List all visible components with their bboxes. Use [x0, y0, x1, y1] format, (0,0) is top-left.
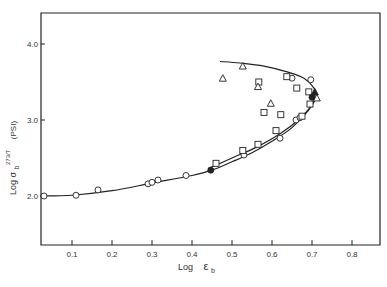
x-tick-label: 0.8 — [346, 250, 358, 259]
x-tick-label: 0.1 — [66, 250, 78, 259]
data-point-square — [261, 109, 267, 115]
data-point-circle — [73, 192, 79, 198]
data-point-square — [284, 74, 290, 80]
x-tick-label: 0.4 — [186, 250, 198, 259]
plot-frame — [41, 13, 380, 245]
data-point-circle — [149, 179, 155, 185]
data-point-square — [294, 85, 300, 91]
data-point-triangle — [311, 88, 318, 95]
data-point-circle — [308, 77, 314, 83]
y-tick-label: 2.0 — [27, 192, 39, 201]
svg-text:Log σ b 273/T: Log σ b 273/T (PSI) — [2, 121, 21, 195]
data-points — [41, 63, 320, 199]
curve-line — [208, 97, 316, 168]
y-axis-ticks: 2.03.04.0 — [27, 40, 45, 201]
data-point-square — [299, 113, 305, 119]
x-tick-label: 0.3 — [146, 250, 158, 259]
data-point-square — [273, 128, 279, 134]
data-point-circle — [183, 172, 189, 178]
data-point-circle — [155, 177, 161, 183]
data-point-circle — [277, 135, 283, 141]
data-point-triangle — [267, 100, 274, 107]
y-tick-label: 3.0 — [27, 116, 39, 125]
data-point-circle — [41, 193, 47, 199]
y-tick-label: 4.0 — [27, 40, 39, 49]
x-tick-label: 0.7 — [306, 250, 318, 259]
x-axis-label: Log ε b — [178, 260, 215, 274]
x-tick-label: 0.5 — [226, 250, 238, 259]
chart-container: 0.10.20.30.40.50.60.70.8 2.03.04.0 Log ε… — [0, 0, 387, 287]
x-axis-ticks: 0.10.20.30.40.50.60.70.8 — [66, 240, 358, 259]
data-point-square — [278, 112, 284, 118]
data-point-circle — [208, 167, 214, 173]
data-point-square — [255, 141, 261, 147]
axes-box — [41, 13, 380, 245]
y-axis-label: Log σ b 273/T (PSI) — [2, 121, 21, 195]
data-point-circle — [95, 187, 101, 193]
data-point-square — [307, 101, 313, 107]
x-tick-label: 0.2 — [106, 250, 118, 259]
scatter-plot: 0.10.20.30.40.50.60.70.8 2.03.04.0 Log ε… — [0, 0, 387, 287]
data-point-square — [240, 147, 246, 153]
data-point-triangle — [219, 75, 226, 82]
x-tick-label: 0.6 — [266, 250, 278, 259]
data-point-square — [213, 160, 219, 166]
